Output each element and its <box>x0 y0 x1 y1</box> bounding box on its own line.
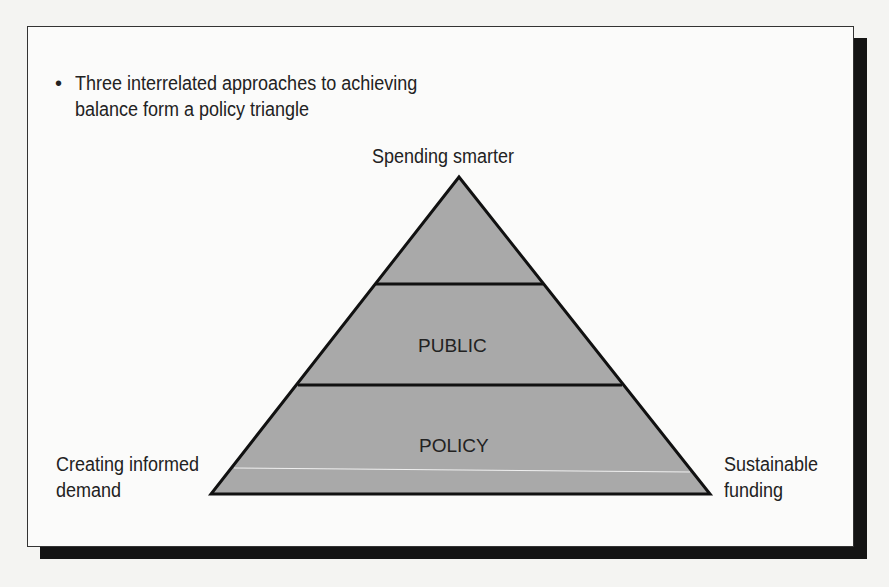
left-label-line1: Creating informed <box>56 451 199 477</box>
right-label-line2: funding <box>724 477 783 503</box>
apex-label: Spending smarter <box>372 143 514 169</box>
band-label-policy: POLICY <box>419 433 489 459</box>
left-label-line2: demand <box>56 477 121 503</box>
right-label-line1: Sustainable <box>724 451 818 477</box>
band-label-public: PUBLIC <box>418 333 487 359</box>
